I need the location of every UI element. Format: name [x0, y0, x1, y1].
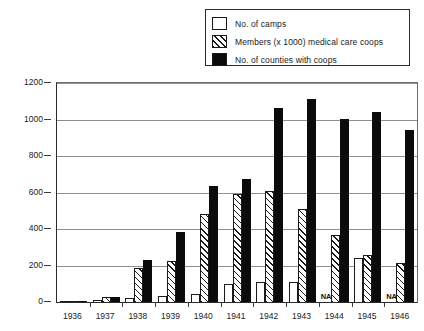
x-axis-tick-label: 1936	[56, 310, 89, 324]
legend-item-members: Members (x 1000) medical care coops	[212, 33, 403, 50]
y-axis-tick-label: 800	[29, 151, 43, 159]
x-axis-tick-mark	[384, 302, 385, 307]
y-axis-tick-label: 0	[38, 297, 43, 305]
bar-counties-1943	[307, 99, 316, 302]
bar-counties-1945	[372, 112, 381, 302]
x-axis-tick-label: 1939	[154, 310, 187, 324]
x-axis-tick-mark	[221, 302, 222, 307]
bar-camps-1938	[125, 298, 134, 302]
legend-swatch-solid-icon	[212, 53, 227, 66]
x-axis-tick-mark	[352, 302, 353, 307]
y-axis-tick-label: 200	[29, 261, 43, 269]
x-axis-tick-mark	[253, 302, 254, 307]
gridline	[57, 83, 417, 84]
x-axis-tick-label: 1937	[89, 310, 122, 324]
y-axis: 120010008006004002000	[0, 74, 52, 293]
chart-plot-area: 120010008006004002000 NANA 1936193719381…	[0, 74, 424, 306]
bar-counties-1940	[209, 186, 218, 302]
y-axis-tick-mark	[44, 155, 51, 156]
bar-members-1942	[265, 191, 274, 302]
bar-counties-1937	[111, 297, 120, 302]
y-axis-tick-mark	[44, 301, 51, 302]
x-axis-tick-mark	[319, 302, 320, 307]
x-axis-tick-mark	[90, 302, 91, 307]
legend-item-counties: No. of counties with coops	[212, 51, 403, 68]
bar-members-1936	[69, 301, 78, 302]
bar-counties-1944	[340, 119, 349, 302]
y-axis-tick-label: 600	[29, 188, 43, 196]
bar-members-1944	[331, 235, 340, 302]
x-axis-tick-label: 1942	[252, 310, 285, 324]
bar-counties-1938	[143, 260, 152, 302]
x-axis-tick-mark	[122, 302, 123, 307]
x-axis-tick-label: 1940	[187, 310, 220, 324]
legend-item-camps: No. of camps	[212, 15, 403, 32]
legend-swatch-open-icon	[212, 17, 227, 30]
y-axis-tick-label: 1200	[24, 78, 43, 86]
bar-camps-1939	[158, 296, 167, 302]
y-axis-tick-mark	[44, 265, 51, 266]
bar-camps-1936	[60, 301, 69, 302]
x-axis-tick-label: 1944	[318, 310, 351, 324]
bar-camps-1937	[93, 300, 102, 302]
chart-legend: No. of camps Members (x 1000) medical ca…	[205, 9, 410, 66]
legend-label-camps: No. of camps	[235, 19, 286, 29]
y-axis-tick-mark	[44, 192, 51, 193]
bar-members-1943	[298, 209, 307, 302]
bar-camps-1942	[256, 282, 265, 302]
bar-counties-1946	[405, 130, 414, 302]
y-axis-tick-mark	[44, 119, 51, 120]
bar-members-1946	[396, 263, 405, 302]
y-axis-tick-mark	[44, 82, 51, 83]
na-label-1944: NA	[321, 292, 331, 301]
x-axis-tick-label: 1938	[121, 310, 154, 324]
x-axis-tick-label: 1943	[285, 310, 318, 324]
bar-camps-1943	[289, 282, 298, 302]
bar-counties-1941	[242, 179, 251, 302]
gridline	[57, 120, 417, 121]
bar-camps-1945	[354, 258, 363, 302]
bar-members-1938	[134, 268, 143, 302]
bar-members-1945	[363, 255, 372, 302]
bar-camps-1940	[191, 294, 200, 302]
bar-members-1939	[167, 261, 176, 302]
bar-members-1937	[102, 297, 111, 302]
x-axis-tick-label: 1941	[220, 310, 253, 324]
y-axis-tick-label: 400	[29, 224, 43, 232]
bar-camps-1941	[224, 284, 233, 302]
legend-swatch-hatched-icon	[212, 35, 227, 48]
bar-members-1940	[200, 214, 209, 302]
x-axis: 1936193719381939194019411942194319441945…	[56, 310, 416, 324]
x-axis-tick-label: 1945	[351, 310, 384, 324]
plot-canvas: NANA	[56, 82, 418, 303]
bar-counties-1936	[78, 301, 87, 302]
gridline	[57, 156, 417, 157]
x-axis-tick-mark	[286, 302, 287, 307]
x-axis-tick-label: 1946	[383, 310, 416, 324]
y-axis-tick-mark	[44, 228, 51, 229]
bar-counties-1939	[176, 232, 185, 302]
x-axis-tick-mark	[188, 302, 189, 307]
bar-counties-1942	[274, 108, 283, 302]
na-label-1946: NA	[386, 292, 396, 301]
y-axis-tick-label: 1000	[24, 115, 43, 123]
legend-label-counties: No. of counties with coops	[235, 55, 337, 65]
legend-label-members: Members (x 1000) medical care coops	[235, 37, 383, 47]
x-axis-tick-mark	[155, 302, 156, 307]
bar-members-1941	[233, 194, 242, 302]
